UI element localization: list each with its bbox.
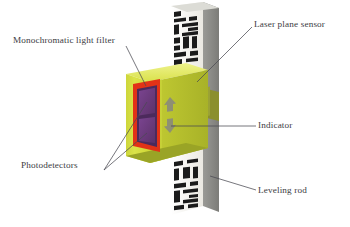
callout-monochromatic-light-filter: Monochromatic light filter (13, 36, 115, 45)
callout-leveling-rod: Leveling rod (258, 186, 307, 195)
callout-photodetectors: Photodetectors (21, 161, 78, 170)
callout-laser-plane-sensor: Laser plane sensor (254, 20, 325, 29)
monochromatic-light-filter (133, 79, 160, 152)
callout-indicator: Indicator (258, 121, 293, 130)
photodetector-lower (139, 117, 155, 143)
technical-diagram: Monochromatic light filter Photodetector… (0, 0, 350, 227)
